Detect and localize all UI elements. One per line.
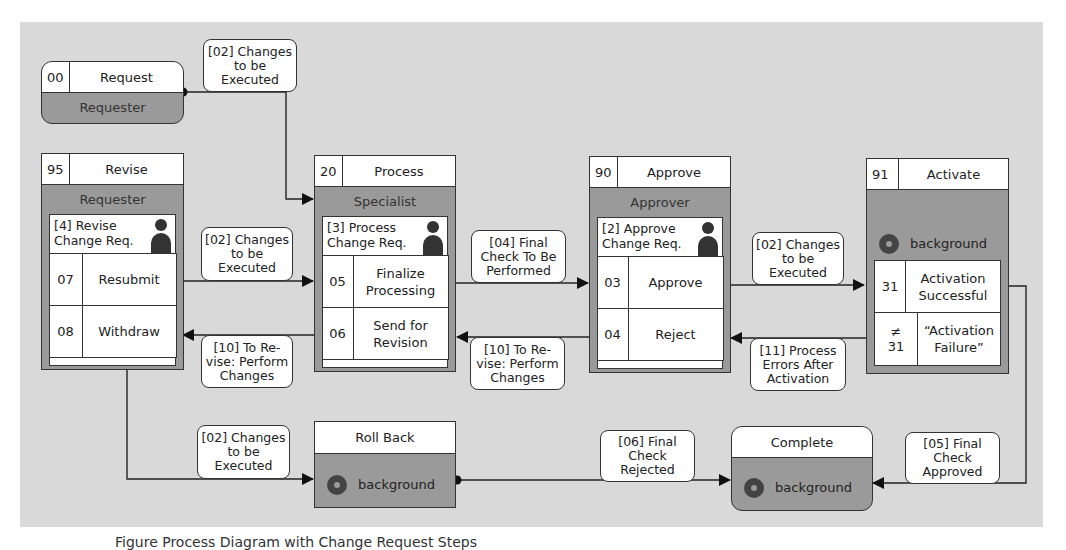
option-code: ≠ 31 (875, 313, 918, 365)
edge-label-success-to-complete: [05] Final Check Approved (905, 432, 1000, 484)
background-label: background (358, 477, 435, 492)
node-title: Approve (618, 157, 730, 187)
option-code: 31 (875, 261, 906, 312)
option-code: 08 (50, 306, 83, 357)
task-box: [2] Approve Change Req. 03 Approve 04 Re… (597, 217, 723, 369)
option-code: 06 (323, 308, 354, 359)
start-node-request[interactable]: 00 Request Requester (41, 61, 184, 124)
node-title: Request (70, 62, 183, 92)
edge-label-withdraw-to-rollback: [02] Changes to be Executed (197, 425, 290, 479)
node-role: Requester (42, 192, 183, 207)
node-roll-back[interactable]: Roll Back background (314, 421, 456, 508)
node-revise[interactable]: 95 Revise Requester [4] Revise Change Re… (41, 153, 184, 370)
option-resubmit[interactable]: 07 Resubmit (49, 253, 177, 306)
node-role: Requester (42, 100, 183, 115)
option-label: Activation Successful (906, 261, 1000, 312)
background-indicator: background (329, 474, 435, 493)
edge-label-rollback-to-complete: [06] Final Check Rejected (600, 430, 695, 482)
background-label: background (775, 480, 852, 495)
option-label: Reject (629, 309, 723, 360)
node-activate[interactable]: 91 Activate background 31 Activation Suc… (866, 158, 1009, 374)
node-complete[interactable]: Complete background (731, 426, 873, 511)
option-code: 05 (323, 256, 354, 307)
user-icon (698, 222, 718, 256)
node-process[interactable]: 20 Process Specialist [3] Process Change… (314, 155, 456, 372)
option-label: Finalize Processing (354, 256, 448, 307)
option-label: Send for Revision (354, 308, 448, 359)
edge-label-resubmit-to-process: [02] Changes to be Executed (201, 227, 293, 281)
option-reject[interactable]: 04 Reject (597, 308, 724, 361)
edge-label-failure-to-approve: [11] Process Errors After Activation (750, 338, 846, 391)
task-label: [3] Process Change Req. (327, 220, 407, 250)
node-title: Roll Back (315, 430, 455, 445)
option-approve[interactable]: 03 Approve (597, 256, 724, 309)
user-icon (423, 221, 443, 255)
edge-label-reject-to-process: [10] To Re-vise: Perform Changes (470, 337, 565, 390)
edge-label-request-to-process: [02] Changes to be Executed (203, 39, 297, 92)
gear-icon (746, 480, 762, 496)
option-group: 31 Activation Successful ≠ 31 “Activatio… (874, 260, 1001, 365)
option-label: Approve (629, 257, 723, 308)
option-activation-successful[interactable]: 31 Activation Successful (874, 260, 1001, 313)
option-label: “Activation Failure” (918, 313, 1000, 365)
task-box: [4] Revise Change Req. 07 Resubmit 08 Wi… (49, 214, 176, 366)
node-number: 20 (315, 156, 343, 186)
figure-caption: Figure Process Diagram with Change Reque… (115, 534, 477, 550)
option-code: 03 (598, 257, 629, 308)
option-withdraw[interactable]: 08 Withdraw (49, 305, 177, 358)
background-label: background (910, 236, 987, 251)
edge-label-revision-to-revise: [10] To Re-vise: Perform Changes (201, 335, 293, 388)
node-number: 95 (42, 154, 70, 184)
node-number: 91 (867, 159, 899, 189)
gear-icon (329, 477, 345, 493)
edge-label-finalize-to-approve: [04] Final Check To Be Performed (471, 230, 566, 283)
option-code: 04 (598, 309, 629, 360)
node-number: 90 (590, 157, 618, 187)
task-box: [3] Process Change Req. 05 Finalize Proc… (322, 216, 448, 368)
option-activation-failure[interactable]: ≠ 31 “Activation Failure” (874, 312, 1001, 366)
option-finalize-processing[interactable]: 05 Finalize Processing (322, 255, 449, 308)
node-role: Specialist (315, 194, 455, 209)
node-title: Process (343, 156, 455, 186)
background-indicator: background (881, 233, 987, 252)
node-role: Approver (590, 195, 730, 210)
option-code: 07 (50, 254, 83, 305)
option-send-for-revision[interactable]: 06 Send for Revision (322, 307, 449, 360)
background-indicator: background (746, 477, 852, 496)
gear-icon (881, 236, 897, 252)
node-title: Complete (732, 435, 872, 450)
option-label: Withdraw (83, 306, 176, 357)
task-label: [2] Approve Change Req. (602, 221, 682, 251)
node-number: 00 (42, 62, 70, 92)
node-title: Activate (899, 159, 1008, 189)
node-title: Revise (70, 154, 183, 184)
user-icon (151, 219, 171, 253)
option-label: Resubmit (83, 254, 176, 305)
node-approve[interactable]: 90 Approve Approver [2] Approve Change R… (589, 156, 731, 373)
task-label: [4] Revise Change Req. (54, 218, 134, 248)
edge-label-approve-to-activate: [02] Changes to be Executed (752, 232, 844, 285)
